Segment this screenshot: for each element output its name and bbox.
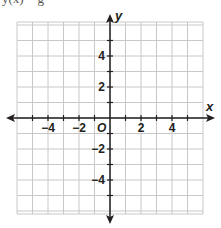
x-tick-label: 2 [138, 121, 145, 135]
x-axis-label: x [205, 99, 214, 114]
y-tick-label: 2 [98, 80, 105, 94]
y-tick-label: −4 [91, 173, 105, 187]
y-tick-label: −2 [91, 142, 105, 156]
axes [6, 14, 215, 224]
x-tick-label: −2 [72, 121, 86, 135]
x-tick-label: −4 [41, 121, 55, 135]
y-axis-label: y [114, 8, 123, 23]
coordinate-plane: −4−22442−2−4 x y O [0, 0, 221, 228]
y-tick-label: 4 [98, 49, 105, 63]
origin-label: O [97, 121, 107, 135]
x-tick-label: 4 [169, 121, 176, 135]
